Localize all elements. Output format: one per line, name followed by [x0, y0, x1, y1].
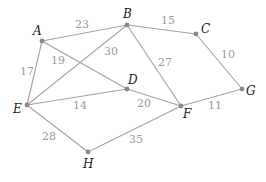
- node-d-label: D: [127, 73, 138, 87]
- node-h-dot: [86, 150, 91, 155]
- edge-weight-a-d: 19: [51, 54, 65, 67]
- edge-b-f: [127, 25, 181, 106]
- edge-weight-d-f: 20: [137, 97, 151, 110]
- node-e-label: E: [12, 102, 22, 116]
- node-d-dot: [125, 87, 130, 92]
- edge-weight-b-c: 15: [161, 14, 175, 27]
- node-b-label: B: [122, 7, 132, 21]
- edge-weight-b-e: 30: [104, 45, 118, 58]
- edge-weight-e-h: 28: [42, 130, 56, 143]
- edge-d-f: [127, 89, 181, 106]
- node-g-dot: [240, 87, 245, 92]
- edge-weight-c-g: 10: [221, 48, 235, 61]
- edge-weight-b-f: 27: [158, 56, 172, 69]
- edge-c-g: [196, 34, 242, 89]
- edge-weight-f-g: 11: [208, 99, 222, 112]
- weighted-graph-diagram: 231510171930271420112835 ABCDEFGH: [0, 0, 266, 182]
- node-labels-group: ABCDEFGH: [12, 7, 256, 171]
- edge-b-e: [27, 25, 127, 105]
- edge-weight-h-f: 35: [129, 133, 143, 146]
- node-f-label: F: [182, 107, 192, 121]
- edge-weight-a-e: 17: [20, 65, 34, 78]
- node-b-dot: [125, 23, 130, 28]
- node-a-label: A: [32, 24, 42, 38]
- node-e-dot: [25, 103, 30, 108]
- edge-e-h: [27, 105, 88, 152]
- node-c-label: C: [201, 22, 210, 36]
- node-c-dot: [194, 32, 199, 37]
- edge-weight-e-d: 14: [73, 99, 87, 112]
- node-h-label: H: [82, 157, 94, 171]
- node-a-dot: [40, 39, 45, 44]
- node-g-label: G: [246, 84, 256, 98]
- edge-weight-a-b: 23: [75, 18, 89, 31]
